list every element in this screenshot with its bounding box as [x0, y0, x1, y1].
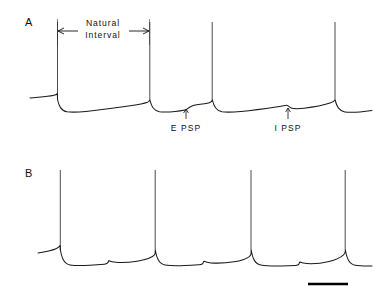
panel-b-label: B	[25, 167, 33, 179]
natural-interval-line1: Natural	[86, 18, 120, 28]
recording-traces-svg: A Natural Interval	[0, 0, 389, 297]
panel-a-trace	[30, 94, 372, 113]
ipsp-annotation: I PSP	[274, 108, 301, 133]
ipsp-label: I PSP	[274, 123, 301, 133]
figure-canvas: A Natural Interval	[0, 0, 389, 297]
panel-a: A Natural Interval	[25, 16, 372, 133]
panel-b-trace	[38, 246, 372, 266]
panel-b: B	[25, 167, 372, 266]
natural-interval-line2: Interval	[85, 30, 120, 40]
panel-a-label: A	[25, 16, 33, 28]
epsp-annotation: E PSP	[171, 109, 202, 133]
panel-b-spikes	[60, 170, 345, 250]
epsp-label: E PSP	[171, 123, 202, 133]
natural-interval-annotation: Natural Interval	[58, 18, 150, 45]
